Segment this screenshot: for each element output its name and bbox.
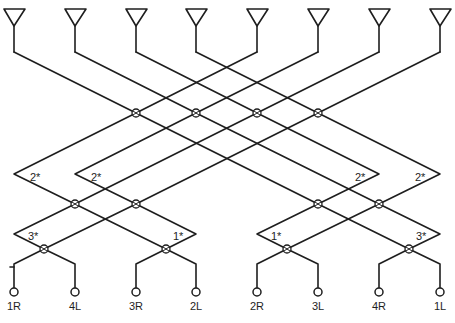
port-icon (253, 288, 261, 296)
coupler-icon (253, 109, 261, 117)
coupler-icon (314, 200, 322, 208)
port-label: 4L (69, 300, 81, 312)
port-icon (375, 288, 383, 296)
antenna-icon (369, 9, 390, 52)
butler-matrix-diagram: 2* 2* 2* 2* 3* 1* 1* 3* 1R 4L 3R 2L 2R 3… (0, 0, 455, 323)
port-label: 2L (190, 300, 202, 312)
antenna-array (4, 9, 451, 52)
coupler-icon (283, 245, 291, 253)
phase-label: 2* (30, 171, 41, 183)
antenna-icon (308, 9, 329, 52)
phase-label: 2* (91, 171, 102, 183)
phase-label: 1* (271, 230, 282, 242)
phase-label: 3* (416, 230, 427, 242)
phase-label: 2* (415, 171, 426, 183)
port-label: 3L (312, 300, 324, 312)
coupler-icon (132, 109, 140, 117)
port-icon (314, 288, 322, 296)
port-icon (436, 288, 444, 296)
antenna-icon (65, 9, 86, 52)
port-icon (132, 288, 140, 296)
port-icon (192, 288, 200, 296)
phase-label: 2* (355, 171, 366, 183)
antenna-icon (4, 9, 25, 52)
phase-shifter-labels: 2* 2* 2* 2* 3* 1* 1* 3* (28, 171, 427, 242)
port-label: 2R (250, 300, 264, 312)
port-icon (71, 288, 79, 296)
port-label: 1L (434, 300, 446, 312)
stage2-to-stage3-lines (14, 204, 440, 249)
phase-label: 1* (173, 230, 184, 242)
antenna-icon (247, 9, 268, 52)
port-icon (10, 288, 18, 296)
coupler-icon (405, 245, 413, 253)
coupler-icon (71, 200, 79, 208)
ports: 1R 4L 3R 2L 2R 3L 4R 1L (7, 288, 446, 312)
port-label: 1R (7, 300, 21, 312)
port-label: 4R (372, 300, 386, 312)
stage1-to-stage2-lines (14, 113, 440, 204)
port-feed-lines (10, 249, 440, 288)
coupler-icon (132, 200, 140, 208)
coupler-icon (375, 200, 383, 208)
antenna-icon (126, 9, 147, 52)
coupler-icon (162, 245, 170, 253)
port-label: 3R (129, 300, 143, 312)
coupler-icon (40, 245, 48, 253)
antenna-feed-lines (14, 52, 440, 113)
antenna-icon (430, 9, 451, 52)
phase-label: 3* (28, 230, 39, 242)
coupler-icon (314, 109, 322, 117)
coupler-icon (192, 109, 200, 117)
antenna-icon (186, 9, 207, 52)
